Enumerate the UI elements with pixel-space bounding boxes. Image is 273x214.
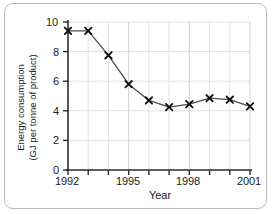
- ytick-label-6: 6: [53, 75, 59, 87]
- x-axis-title: Year: [60, 189, 260, 201]
- plot-background: [68, 22, 250, 170]
- xtick-label-1998: 1998: [176, 175, 200, 187]
- ytick-label-8: 8: [53, 46, 59, 58]
- ytick-label-2: 2: [53, 134, 59, 146]
- xtick-label-1992: 1992: [55, 175, 79, 187]
- xtick-label-1995: 1995: [116, 175, 140, 187]
- ytick-label-10: 10: [46, 16, 58, 28]
- xtick-label-2001: 2001: [237, 175, 261, 187]
- y-axis-title-line1: Energy consumption: [15, 43, 27, 173]
- ytick-label-4: 4: [53, 105, 59, 117]
- y-axis-title: Energy consumption (GJ per tonne of prod…: [15, 43, 38, 173]
- y-axis-title-line2: (GJ per tonne of product): [26, 43, 38, 173]
- line-chart: 10 8 6 4 2 0 1992 1995 1998 2001 Energy …: [0, 0, 273, 214]
